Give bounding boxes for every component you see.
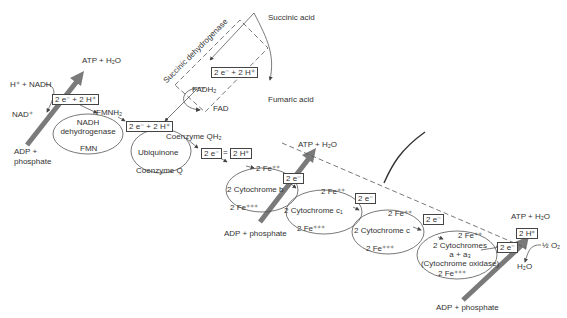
complex-cytochromes-1: 2 Cytochromes bbox=[415, 241, 505, 250]
label-nad: NAD⁺ bbox=[12, 110, 33, 119]
electron-box-9: 2 H⁺ bbox=[516, 228, 538, 239]
complex-cytochromes-2: a + a₃ bbox=[415, 250, 505, 259]
label-fadh2: FADH₂ bbox=[192, 85, 216, 94]
label-adp-1: ADP + bbox=[14, 147, 37, 156]
label-plus: = bbox=[223, 148, 228, 157]
electron-box-6: 2 e⁻ bbox=[355, 193, 376, 204]
label-fumaric-acid: Fumaric acid bbox=[268, 95, 314, 104]
electron-box-3: 2 e⁻ + 2 H⁺ bbox=[211, 67, 258, 78]
label-coenzyme-q: Coenzyme Q bbox=[136, 166, 183, 175]
label-half-o2: ½ O₂ bbox=[542, 241, 560, 250]
label-succinic-acid: Succinic acid bbox=[268, 13, 315, 22]
label-fe-c1-ox: 2 Fe⁺⁺⁺ bbox=[297, 224, 325, 233]
label-fe-b-red: 2 Fe⁺⁺ bbox=[256, 164, 280, 173]
complex-cytochrome-c: 2 Cytochrome c bbox=[354, 226, 410, 235]
label-coenzyme-qh2: Coenzyme QH₂ bbox=[166, 132, 222, 141]
label-fmnh2: FMNH₂ bbox=[96, 108, 122, 117]
electron-box-1: 2 e⁻ + 2 H⁺ bbox=[52, 94, 99, 105]
label-fad: FAD bbox=[213, 104, 229, 113]
complex-cytochrome-c1: 2 Cytochrome c₁ bbox=[284, 206, 343, 215]
label-fmn: FMN bbox=[80, 144, 97, 153]
electron-box-8: 2 e⁻ bbox=[497, 242, 518, 253]
electron-box-5: 2 e⁻ bbox=[283, 173, 304, 184]
label-atp-1: ATP + H₂O bbox=[82, 56, 121, 65]
pen-stroke bbox=[384, 132, 425, 183]
label-atp-2: ATP + H₂O bbox=[298, 140, 337, 149]
diagram-lines bbox=[0, 0, 567, 318]
label-adp-2: ADP + phosphate bbox=[224, 229, 287, 238]
electron-box-4e: 2 e⁻ bbox=[201, 148, 222, 159]
label-adp-3: ADP + phosphate bbox=[436, 303, 499, 312]
electron-box-2: 2 e⁻ + 2 H⁺ bbox=[126, 121, 173, 132]
label-atp-3: ATP + H₂O bbox=[511, 212, 550, 221]
complex-cytochrome-b: 2 Cytochrome b bbox=[227, 185, 283, 194]
label-fe-c-red: 2 Fe⁺⁺ bbox=[388, 209, 412, 218]
label-fe-c-ox: 2 Fe⁺⁺⁺ bbox=[366, 244, 394, 253]
label-fe-b-ox: 2 Fe⁺⁺⁺ bbox=[230, 203, 258, 212]
complex-ubiquinone: Ubiquinone bbox=[138, 148, 178, 157]
label-fe-a-ox: 2 Fe⁺⁺⁺ bbox=[438, 269, 466, 278]
label-h-nadh: H⁺ + NADH bbox=[10, 80, 52, 89]
complex-nadh-dehydrogenase: NADH dehydrogenase bbox=[60, 118, 116, 136]
electron-box-4h: 2 H⁺ bbox=[230, 148, 252, 159]
label-fe-c1-red: 2 Fe⁺⁺ bbox=[321, 187, 345, 196]
label-fe-a-red: 2 Fe⁺⁺ bbox=[458, 231, 482, 240]
electron-box-7: 2 e⁻ bbox=[423, 214, 444, 225]
complex-cytochromes-3: (Cytochrome oxidase) bbox=[415, 259, 505, 268]
label-h2o: H₂O bbox=[517, 262, 532, 271]
label-adp-1b: phosphate bbox=[14, 157, 51, 166]
